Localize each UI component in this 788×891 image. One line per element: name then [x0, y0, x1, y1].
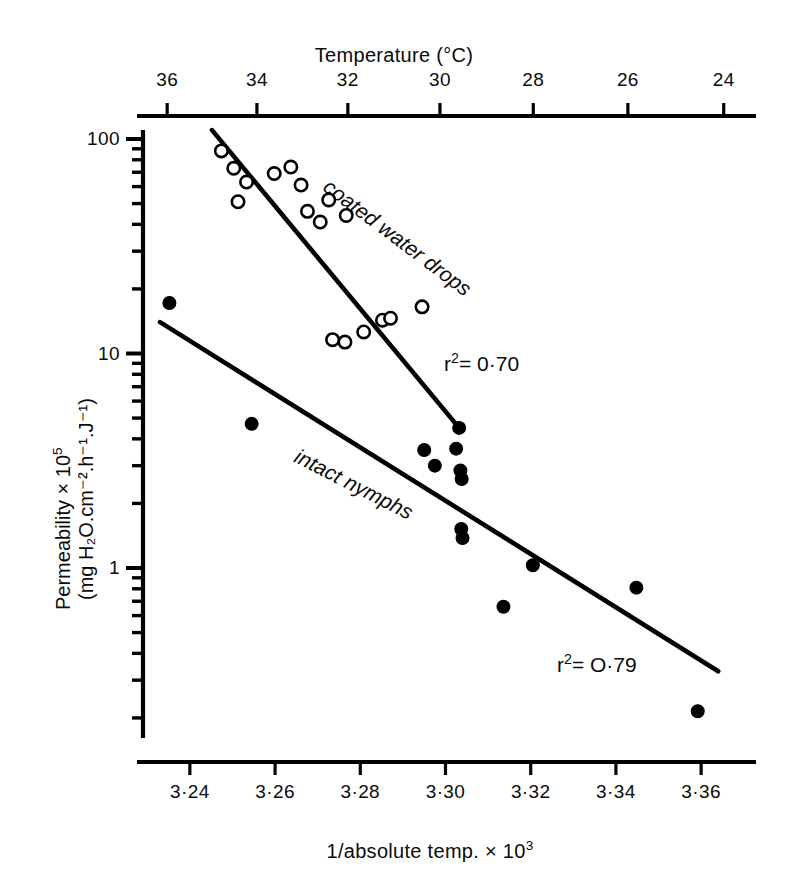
data-point-filled-circle — [526, 559, 539, 572]
top-axis-tick-label: 26 — [617, 69, 639, 91]
data-point-open-circle — [323, 194, 335, 206]
data-point-filled-circle — [163, 297, 176, 310]
bottom-axis-tick-label: 3·28 — [340, 781, 380, 803]
data-point-open-circle — [339, 336, 351, 348]
data-point-filled-circle — [428, 459, 441, 472]
data-point-open-circle — [326, 333, 338, 345]
top-axis-tick-label: 30 — [429, 69, 451, 91]
data-point-open-circle — [228, 162, 240, 174]
data-point-open-circle — [268, 167, 280, 179]
y-axis-tick-label: 100 — [0, 128, 120, 150]
tick-marks — [126, 103, 724, 775]
regression-line-coated-water-drops — [212, 130, 459, 428]
data-point-open-circle — [416, 301, 428, 313]
bottom-axis-tick-label: 3·36 — [681, 781, 721, 803]
data-point-filled-circle — [456, 532, 469, 545]
data-point-open-circle — [215, 145, 227, 157]
bottom-axis-tick-label: 3·24 — [170, 781, 210, 803]
data-point-filled-circle — [450, 442, 463, 455]
top-axis-tick-label: 24 — [713, 69, 735, 91]
axis-spines — [137, 116, 756, 762]
data-points — [163, 145, 704, 718]
bottom-axis-tick-label: 3·26 — [255, 781, 295, 803]
data-point-filled-circle — [453, 421, 466, 434]
y-axis-tick-label: 10 — [0, 343, 120, 365]
bottom-axis-tick-label: 3·30 — [426, 781, 466, 803]
regression-line-intact-nymphs — [160, 322, 718, 671]
top-axis-tick-label: 28 — [522, 69, 544, 91]
data-point-open-circle — [301, 205, 313, 217]
data-point-open-circle — [384, 312, 396, 324]
bottom-axis-tick-label: 3·34 — [596, 781, 636, 803]
data-point-filled-circle — [497, 600, 510, 613]
data-point-open-circle — [295, 179, 307, 191]
data-point-open-circle — [285, 161, 297, 173]
data-point-filled-circle — [418, 444, 431, 457]
data-point-filled-circle — [691, 705, 704, 718]
data-point-open-circle — [340, 209, 352, 221]
chart-figure: Temperature (°C) 1/absolute temp. × 103 … — [0, 0, 788, 891]
data-point-open-circle — [232, 196, 244, 208]
y-axis-tick-label: 1 — [0, 557, 120, 579]
data-point-open-circle — [357, 326, 369, 338]
top-axis-tick-label: 32 — [337, 69, 359, 91]
data-point-open-circle — [314, 216, 326, 228]
data-point-filled-circle — [455, 473, 468, 486]
bottom-axis-tick-label: 3·32 — [511, 781, 551, 803]
top-axis-tick-label: 34 — [246, 69, 268, 91]
data-point-filled-circle — [630, 581, 643, 594]
top-axis-tick-label: 36 — [156, 69, 178, 91]
data-point-open-circle — [240, 176, 252, 188]
data-point-filled-circle — [245, 417, 258, 430]
